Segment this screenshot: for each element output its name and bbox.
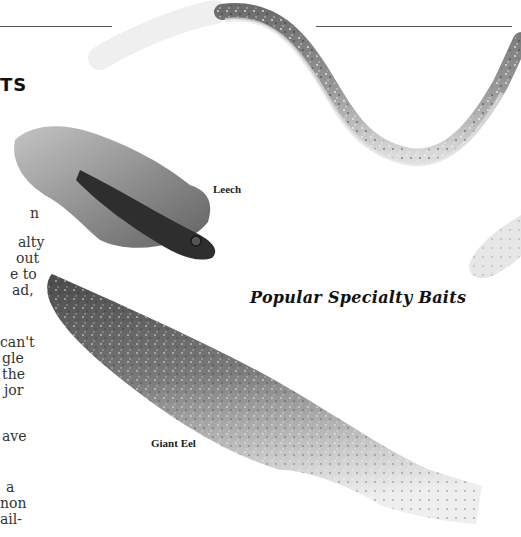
giant-eel-photo xyxy=(47,274,482,524)
caption-leech: Leech xyxy=(213,183,241,195)
body-text-line: out xyxy=(16,250,39,266)
body-text-line: n xyxy=(30,205,39,221)
curly-worm-photo xyxy=(100,11,521,164)
section-heading: TS xyxy=(0,74,27,95)
caption-giant-eel: Giant Eel xyxy=(151,437,196,449)
bait-photos xyxy=(0,0,521,537)
body-text-line: jor xyxy=(4,382,23,398)
body-text-line: non xyxy=(0,495,26,511)
body-text-line: alty xyxy=(18,234,44,250)
body-text-line: ail- xyxy=(0,511,22,527)
body-text-line: e to xyxy=(10,266,37,282)
body-text-line: a xyxy=(6,479,14,495)
body-text-line: gle xyxy=(2,350,24,366)
body-text-line: the xyxy=(2,366,25,382)
body-text-line: ad, xyxy=(12,282,34,298)
grub-tail-photo xyxy=(469,215,521,278)
body-text-line: can't xyxy=(0,334,35,350)
figure-title: Popular Specialty Baits xyxy=(250,288,466,307)
body-text-line: ave xyxy=(2,428,27,444)
